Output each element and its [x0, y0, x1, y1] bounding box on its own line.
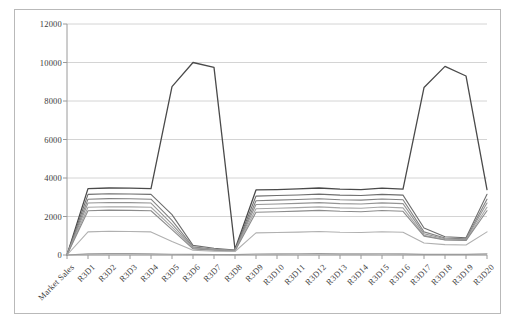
- series-line: [67, 207, 487, 255]
- y-tick-label: 8000: [18, 96, 62, 106]
- y-tick-label: 0: [18, 250, 62, 260]
- y-tick-label: 4000: [18, 173, 62, 183]
- series-line: [67, 63, 487, 256]
- y-tick-label: 10000: [18, 58, 62, 68]
- series-group: [67, 63, 487, 256]
- gridlines: [67, 24, 487, 255]
- y-tick-label: 6000: [18, 135, 62, 145]
- y-tick-label: 2000: [18, 212, 62, 222]
- line-chart: 020004000600080001000012000 Market Sales…: [0, 0, 515, 331]
- y-tick-label: 12000: [18, 19, 62, 29]
